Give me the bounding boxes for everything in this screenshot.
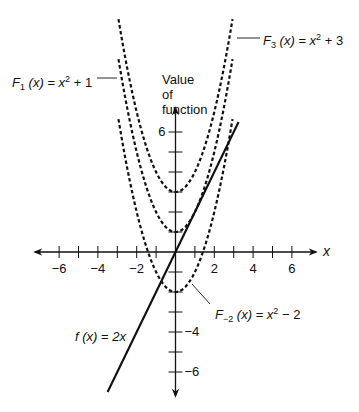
x-tick-label: 2 [199, 262, 229, 276]
x-tick-label: 6 [277, 262, 307, 276]
x-tick-label: −4 [83, 262, 113, 276]
y-axis-title-line-3: function [162, 102, 208, 117]
y-tick-label: 6 [152, 125, 166, 139]
x-tick-label: 4 [238, 262, 268, 276]
legend-label-f-minus-2: F−2 (x) = x2 − 2 [215, 304, 300, 327]
legend-label-f-2x: f (x) = 2x [75, 329, 126, 344]
y-tick-label: −6 [185, 365, 200, 379]
legend-label-f1: F1 (x) = x2 + 1 [12, 72, 92, 95]
leader-f-minus-2 [192, 284, 210, 304]
y-axis-title: Value of function [162, 72, 208, 117]
y-axis-title-line-1: Value [162, 72, 208, 87]
y-tick-label: −4 [185, 325, 200, 339]
legend-label-f3: F3 (x) = x2 + 3 [263, 30, 343, 53]
x-tick-label: −6 [44, 262, 74, 276]
x-tick-label: −2 [122, 262, 152, 276]
y-axis-title-line-2: of [162, 87, 208, 102]
chart-canvas [0, 0, 359, 412]
x-axis-label: x [323, 244, 330, 259]
